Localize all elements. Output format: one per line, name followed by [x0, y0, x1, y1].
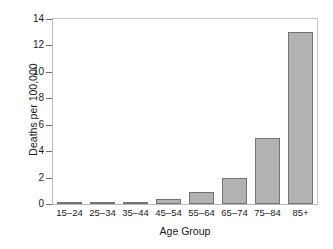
bar-chart: 02468101214 15–2425–3435–4445–5455–6465–… [0, 0, 333, 249]
x-tick-label: 25–34 [86, 208, 119, 218]
y-tick-mark [46, 45, 52, 46]
bar [90, 202, 116, 204]
bar [123, 202, 149, 204]
bar [156, 199, 182, 204]
y-tick-mark [46, 98, 52, 99]
y-axis-title: Deaths per 100,000 [28, 20, 39, 200]
y-tick-mark [46, 178, 52, 179]
bar [288, 32, 314, 204]
bars-layer [53, 19, 317, 204]
x-tick-label: 85+ [284, 208, 317, 218]
y-tick-mark [46, 125, 52, 126]
bar [222, 178, 248, 204]
y-tick-label: 0 [4, 199, 44, 209]
y-tick-mark [46, 151, 52, 152]
x-tick-label: 55–64 [185, 208, 218, 218]
x-tick-label: 65–74 [218, 208, 251, 218]
x-tick-label: 35–44 [119, 208, 152, 218]
y-tick-mark [46, 204, 52, 205]
x-tick-label: 45–54 [152, 208, 185, 218]
bar [255, 138, 281, 204]
bar [189, 192, 215, 204]
y-tick-mark [46, 72, 52, 73]
x-tick-label: 15–24 [53, 208, 86, 218]
bar [57, 202, 83, 204]
x-tick-label: 75–84 [251, 208, 284, 218]
x-axis-title: Age Group [52, 226, 318, 237]
y-tick-mark [46, 19, 52, 20]
